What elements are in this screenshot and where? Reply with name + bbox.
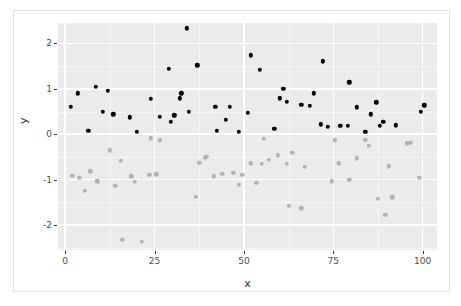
y-axis-label: y (17, 117, 30, 124)
data-point (185, 26, 189, 30)
data-point (281, 87, 285, 91)
chart-figure: x y 210-1-20255075100 (0, 0, 461, 306)
data-point (347, 80, 351, 84)
data-point (149, 97, 153, 101)
grid-major-horizontal (58, 43, 437, 45)
grid-minor-vertical (378, 23, 379, 250)
data-point (383, 213, 387, 217)
y-tick-label: -1 (30, 175, 52, 185)
data-point (249, 53, 253, 57)
data-point (75, 91, 79, 95)
data-point (422, 103, 426, 107)
data-point (363, 137, 367, 141)
data-point (149, 136, 153, 140)
grid-major-vertical (422, 23, 424, 250)
data-point (338, 124, 342, 128)
data-point (70, 173, 74, 177)
data-point (213, 104, 217, 108)
data-point (197, 161, 201, 165)
data-point (147, 173, 151, 177)
data-point (193, 195, 197, 199)
data-point (236, 183, 240, 187)
data-point (168, 120, 172, 124)
data-point (354, 156, 358, 160)
grid-major-vertical (333, 23, 335, 250)
grid-major-vertical (154, 23, 156, 250)
data-point (320, 59, 324, 63)
y-tick-mark (54, 43, 57, 44)
x-tick-mark (244, 251, 245, 254)
grid-minor-vertical (110, 23, 111, 250)
x-tick-label: 75 (328, 256, 339, 266)
grid-major-horizontal (58, 179, 437, 181)
data-point (261, 137, 265, 141)
data-point (408, 141, 412, 145)
data-point (277, 96, 281, 100)
grid-minor-vertical (289, 23, 290, 250)
x-tick-mark (333, 251, 334, 254)
data-point (354, 105, 358, 109)
y-tick-label: 0 (30, 129, 52, 139)
data-point (68, 105, 72, 109)
grid-minor-horizontal (58, 248, 437, 249)
data-point (111, 112, 115, 116)
data-point (100, 110, 104, 114)
data-point (267, 158, 271, 162)
y-tick-mark (54, 225, 57, 226)
data-point (167, 67, 171, 71)
data-point (158, 114, 162, 118)
data-point (390, 195, 394, 199)
data-point (254, 181, 258, 185)
grid-minor-horizontal (58, 157, 437, 158)
x-tick-mark (423, 251, 424, 254)
data-point (172, 113, 176, 117)
data-point (381, 120, 385, 124)
grid-major-horizontal (58, 88, 437, 90)
grid-major-horizontal (58, 133, 437, 135)
data-point (231, 171, 235, 175)
data-point (108, 148, 112, 152)
y-tick-label: -2 (30, 220, 52, 230)
data-point (308, 104, 312, 108)
data-point (286, 203, 290, 207)
data-point (378, 123, 382, 127)
data-point (154, 172, 158, 176)
data-point (290, 151, 294, 155)
plot-panel (58, 23, 437, 250)
data-point (227, 105, 231, 109)
data-point (179, 91, 183, 95)
data-point (326, 125, 330, 129)
data-point (88, 169, 92, 173)
y-tick-mark (54, 180, 57, 181)
data-point (387, 164, 391, 168)
data-point (249, 161, 253, 165)
data-point (177, 96, 181, 100)
data-point (133, 180, 137, 184)
x-tick-mark (65, 251, 66, 254)
x-tick-label: 0 (62, 256, 68, 266)
data-point (95, 179, 99, 183)
data-point (394, 123, 398, 127)
data-point (299, 206, 303, 210)
y-tick-label: 2 (30, 38, 52, 48)
grid-minor-horizontal (58, 66, 437, 67)
grid-major-vertical (243, 23, 245, 250)
data-point (140, 240, 144, 244)
data-point (120, 238, 124, 242)
data-point (345, 124, 349, 128)
x-axis-label: x (58, 277, 437, 290)
data-point (186, 109, 190, 113)
data-point (299, 103, 303, 107)
grid-minor-vertical (199, 23, 200, 250)
grid-minor-horizontal (58, 202, 437, 203)
data-point (127, 115, 131, 119)
x-tick-label: 50 (238, 256, 249, 266)
data-point (220, 172, 224, 176)
x-tick-mark (155, 251, 156, 254)
data-point (272, 127, 276, 131)
x-tick-label: 25 (149, 256, 160, 266)
data-point (376, 196, 380, 200)
data-point (336, 161, 340, 165)
y-tick-mark (54, 89, 57, 90)
data-point (258, 68, 262, 72)
